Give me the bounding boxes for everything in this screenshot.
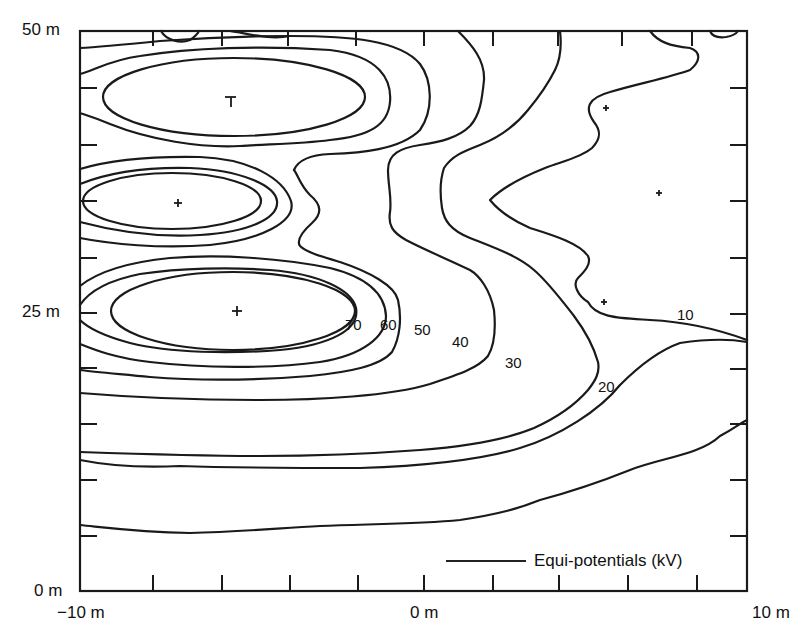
contour-bottom-b — [80, 420, 747, 533]
contour-lines — [80, 31, 747, 533]
plot-frame — [80, 31, 747, 591]
y-tick-label-25: 25 m — [22, 302, 60, 322]
y-axis-ticks — [80, 88, 747, 536]
contour-10 — [490, 31, 747, 340]
x-tick-label-10: 10 m — [752, 603, 790, 623]
contour-label-10: 10 — [677, 306, 694, 323]
contour-plot: 70 60 50 40 30 20 10 — [0, 0, 801, 644]
contour-label-40: 40 — [452, 333, 469, 350]
y-tick-label-50: 50 m — [22, 20, 60, 40]
legend: Equi-potentials (kV) — [446, 551, 682, 571]
contour-label-50: 50 — [414, 321, 431, 338]
legend-label: Equi-potentials (kV) — [534, 551, 682, 571]
contour-lower-10 — [80, 340, 747, 468]
contour-label-60: 60 — [380, 316, 397, 333]
contour-label-30: 30 — [505, 354, 522, 371]
legend-line-swatch — [446, 560, 526, 562]
y-tick-label-0: 0 m — [34, 581, 62, 601]
contour-middle-70 — [83, 173, 261, 229]
contour-20 — [80, 31, 599, 456]
x-tick-label-0: 0 m — [410, 603, 438, 623]
source-markers — [174, 97, 662, 316]
contour-label-70: 70 — [345, 316, 362, 333]
contour-label-20: 20 — [598, 378, 615, 395]
contour-upper-50 — [80, 36, 430, 170]
x-tick-label-minus10: −10 m — [57, 603, 105, 623]
